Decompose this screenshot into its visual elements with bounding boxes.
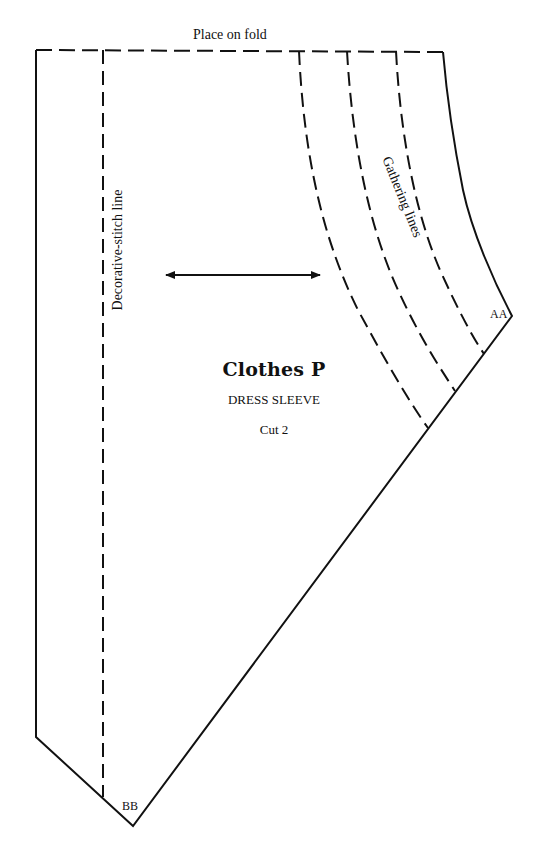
pattern-outline: [36, 50, 512, 826]
stitch-line-label: Decorative-stitch line: [110, 190, 126, 311]
notch-label-bb: BB: [122, 799, 138, 814]
fold-line: [36, 50, 443, 52]
brand-name: Clothes P: [150, 358, 398, 380]
pattern-title-block: Clothes P DRESS SLEEVE Cut 2: [150, 358, 398, 438]
cut-instruction: Cut 2: [150, 422, 398, 438]
fold-label: Place on fold: [193, 27, 267, 43]
notch-label-aa: AA: [490, 307, 507, 322]
piece-name: DRESS SLEEVE: [150, 392, 398, 408]
